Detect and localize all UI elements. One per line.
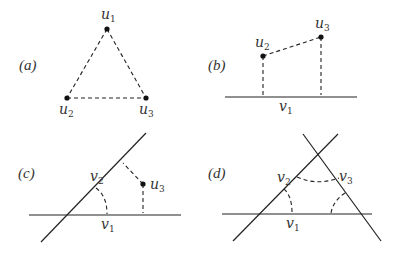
- perp-u3-v2: [123, 163, 143, 184]
- line-v2: [41, 133, 146, 242]
- label-u1: u1: [101, 6, 116, 24]
- edge-u1-u2: [67, 29, 107, 98]
- panel-b: (b) u2 u3 v1: [208, 15, 357, 116]
- panel-d-label: (d): [208, 165, 226, 182]
- point-u3: [318, 34, 323, 39]
- point-u3: [143, 95, 148, 100]
- label-v3: v3: [339, 168, 353, 186]
- panel-c-label: (c): [18, 165, 35, 182]
- point-u1: [104, 26, 109, 31]
- angle-arc-v1-v2: [96, 188, 107, 214]
- angle-arc-v1-v2: [284, 189, 292, 213]
- panel-d: (d) v2 v3 v1: [208, 134, 381, 241]
- figure-canvas: (a) u1 u2 u3 (b) u2 u3 v1 (c) u3 v2 v1: [0, 0, 401, 253]
- label-u2: u2: [59, 101, 74, 119]
- panel-b-label: (b): [208, 57, 226, 74]
- edge-u2-u3: [263, 37, 321, 56]
- panel-c: (c) u3 v2 v1: [18, 133, 181, 242]
- angle-arc-v1-v3: [331, 193, 345, 213]
- angle-arc-v2-v3: [297, 177, 339, 182]
- label-v2: v2: [90, 168, 104, 186]
- label-v1: v1: [279, 98, 293, 116]
- point-u2: [260, 53, 265, 58]
- point-u3: [140, 181, 145, 186]
- label-v2: v2: [277, 169, 291, 187]
- edge-u1-u3: [107, 29, 146, 98]
- label-u3: u3: [139, 101, 154, 119]
- label-v1: v1: [101, 216, 115, 234]
- panel-a: (a) u1 u2 u3: [19, 6, 154, 119]
- label-u3: u3: [315, 15, 330, 33]
- line-v3: [303, 134, 381, 241]
- label-u2: u2: [255, 34, 270, 52]
- label-u3: u3: [150, 176, 165, 194]
- point-u2: [64, 95, 69, 100]
- panel-a-label: (a): [19, 57, 37, 74]
- label-v1: v1: [286, 215, 300, 233]
